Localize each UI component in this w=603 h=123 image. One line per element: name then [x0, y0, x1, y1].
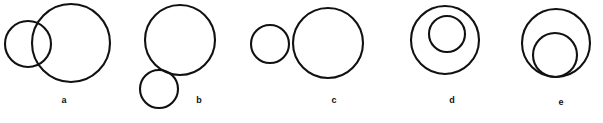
panel-b-large-circle — [145, 5, 215, 75]
panel-e — [522, 9, 590, 77]
panel-label-c: c — [324, 96, 344, 105]
panel-label-d: d — [442, 96, 462, 105]
panel-c — [251, 8, 363, 78]
circle-relations-figure: a b c d e — [0, 0, 603, 123]
panel-a — [5, 4, 110, 82]
panel-c-large-circle — [293, 8, 363, 78]
panel-label-b: b — [189, 96, 209, 105]
figure-canvas — [0, 0, 603, 123]
panel-e-inner-circle — [533, 33, 577, 77]
panel-label-a: a — [54, 96, 74, 105]
panel-b-small-circle — [140, 70, 178, 108]
panel-a-large-circle — [32, 4, 110, 82]
panel-c-small-circle — [251, 25, 289, 63]
panel-a-small-circle — [5, 21, 51, 67]
panel-b — [140, 5, 215, 108]
panel-e-outer-circle — [522, 9, 590, 77]
panel-d-inner-circle — [429, 16, 465, 52]
panel-d — [411, 6, 479, 74]
panel-label-e: e — [551, 98, 571, 107]
